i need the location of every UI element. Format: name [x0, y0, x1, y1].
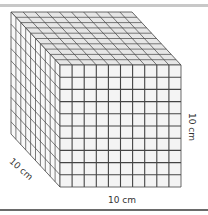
bottom-border	[0, 209, 208, 211]
cube-diagram	[0, 0, 208, 215]
height-label: 10 cm	[187, 113, 197, 141]
front-face	[60, 65, 181, 187]
width-label: 10 cm	[108, 195, 136, 205]
